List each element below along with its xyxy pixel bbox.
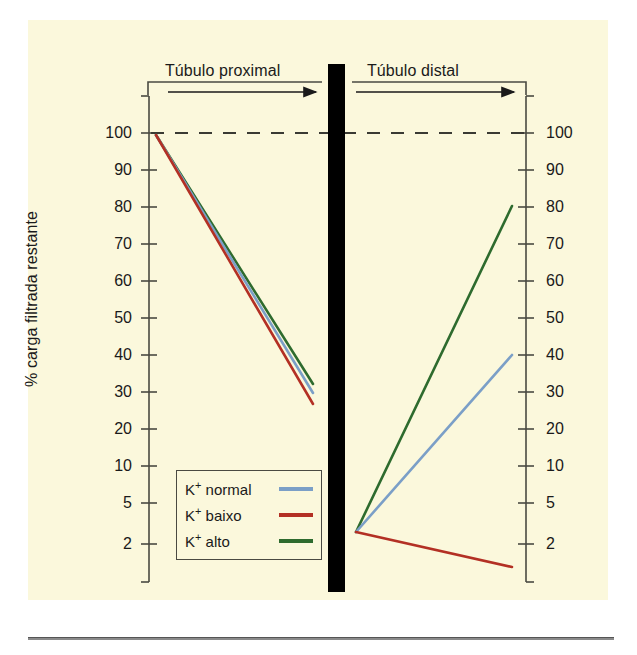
y-tick-right-40: 40 xyxy=(546,346,588,364)
y-tick-left-70: 70 xyxy=(90,235,132,253)
y-tick-left-80: 80 xyxy=(90,198,132,216)
tubule-divider-bar xyxy=(328,64,345,592)
y-tick-right-30: 30 xyxy=(546,383,588,401)
segment-label-distal: Túbulo distal xyxy=(367,62,459,80)
segment-label-proximal: Túbulo proximal xyxy=(165,62,280,80)
legend: K+ normal K+ baixo K+ alto xyxy=(176,470,322,560)
legend-item-k-normal: K+ normal xyxy=(185,476,315,502)
y-tick-right-20: 20 xyxy=(546,420,588,438)
y-tick-right-50: 50 xyxy=(546,309,588,327)
y-tick-right-100: 100 xyxy=(546,124,588,142)
y-tick-left-20: 20 xyxy=(90,420,132,438)
y-tick-left-90: 90 xyxy=(90,161,132,179)
y-tick-left-10: 10 xyxy=(90,457,132,475)
y-tick-left-50: 50 xyxy=(90,309,132,327)
figure-container: Túbulo proximal Túbulo distal % carga fi… xyxy=(0,0,637,655)
y-tick-left-40: 40 xyxy=(90,346,132,364)
bottom-divider-rule xyxy=(28,637,614,640)
y-tick-right-10: 10 xyxy=(546,457,588,475)
y-tick-right-2: 2 xyxy=(546,535,588,553)
legend-swatch-k-alto xyxy=(279,539,313,543)
y-tick-right-90: 90 xyxy=(546,161,588,179)
y-axis-left xyxy=(141,96,157,582)
legend-item-k-baixo: K+ baixo xyxy=(185,502,315,528)
legend-swatch-k-baixo xyxy=(279,513,313,517)
proximal-curves xyxy=(156,135,313,404)
legend-label-k-alto: K+ alto xyxy=(185,531,230,550)
y-tick-right-80: 80 xyxy=(546,198,588,216)
y-tick-left-30: 30 xyxy=(90,383,132,401)
series-k-alto-distal xyxy=(356,206,512,532)
distal-curves xyxy=(356,206,512,567)
legend-label-k-normal: K+ normal xyxy=(185,479,251,498)
legend-item-k-alto: K+ alto xyxy=(185,528,315,554)
y-tick-left-60: 60 xyxy=(90,272,132,290)
legend-swatch-k-normal xyxy=(279,487,313,491)
y-tick-left-2: 2 xyxy=(90,535,132,553)
y-tick-right-5: 5 xyxy=(546,494,588,512)
legend-label-k-baixo: K+ baixo xyxy=(185,505,241,524)
y-tick-left-100: 100 xyxy=(90,124,132,142)
y-tick-right-70: 70 xyxy=(546,235,588,253)
series-k-baixo-distal xyxy=(356,532,512,567)
y-tick-left-5: 5 xyxy=(90,494,132,512)
series-k-normal-distal xyxy=(356,355,512,532)
y-tick-right-60: 60 xyxy=(546,272,588,290)
y-axis-label: % carga filtrada restante xyxy=(23,179,41,419)
series-k-baixo-proximal xyxy=(156,135,313,404)
y-axis-right xyxy=(518,96,534,582)
